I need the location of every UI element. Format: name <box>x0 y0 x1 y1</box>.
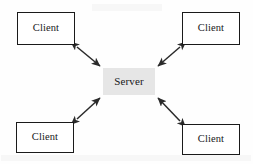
diagram-canvas: Client Client Client Client Server <box>0 0 253 164</box>
connector-bottom-right <box>158 98 180 121</box>
node-label: Client <box>33 23 59 34</box>
node-label: Client <box>198 23 224 34</box>
node-client-bottom-left: Client <box>16 122 74 153</box>
node-server: Server <box>103 68 155 95</box>
node-client-top-left: Client <box>17 12 75 45</box>
connector-top-left <box>77 47 100 66</box>
node-client-bottom-right: Client <box>182 124 240 155</box>
connector-top-right <box>158 47 180 66</box>
node-label: Client <box>198 134 224 145</box>
server-label: Server <box>114 76 143 87</box>
connector-bottom-left <box>77 98 100 119</box>
node-client-top-right: Client <box>182 12 240 45</box>
node-label: Client <box>32 132 58 143</box>
